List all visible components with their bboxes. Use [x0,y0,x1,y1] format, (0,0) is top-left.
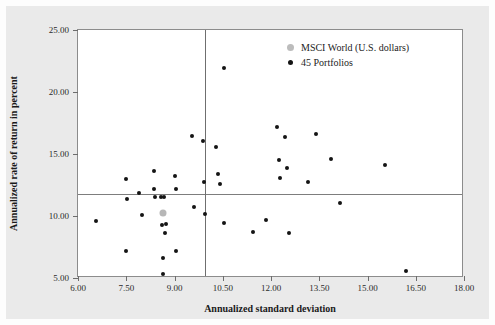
y-axis-title: Annualized rate of return in percent [6,29,20,277]
x-axis-tick-label: 15.00 [357,283,377,293]
portfolio-data-point [278,176,282,180]
y-axis-tick-label: 15.00 [49,149,69,159]
portfolio-data-point [124,177,128,181]
y-axis-tick [73,30,78,31]
portfolio-data-point [190,134,194,138]
portfolio-data-point [218,182,222,186]
portfolio-data-point [251,230,255,234]
portfolio-data-point [140,213,144,217]
x-axis-tick-label: 9.00 [167,283,183,293]
portfolio-data-point [329,157,333,161]
y-axis-tick [73,92,78,93]
x-axis-tick [223,276,224,281]
portfolio-data-point [214,145,218,149]
portfolio-data-point [161,272,165,276]
legend-item: MSCI World (U.S. dollars) [283,40,409,55]
x-axis-tick [126,276,127,281]
legend-item-label: 45 Portfolios [301,57,353,68]
y-axis-tick-label: 25.00 [49,25,69,35]
portfolio-data-point [174,187,178,191]
portfolio-data-point [137,191,141,195]
x-axis-tick-label: 10.50 [213,283,233,293]
portfolio-data-point [162,195,166,199]
vertical-reference-line [205,30,206,276]
chart-screenshot: Annualized rate of return in percent 5.0… [0,0,495,325]
x-axis-title: Annualized standard deviation [77,303,463,314]
y-axis-tick-label: 10.00 [49,211,69,221]
x-axis-tick-label: 18.00 [454,283,474,293]
y-axis-title-text: Annualized rate of return in percent [8,76,19,231]
x-axis-tick [271,276,272,281]
dot-icon [287,44,294,51]
portfolio-data-point [192,205,196,209]
portfolio-data-point [306,180,310,184]
portfolio-data-point [285,166,289,170]
portfolio-data-point [152,187,156,191]
x-axis-tick-label: 16.50 [406,283,426,293]
legend-item-label: MSCI World (U.S. dollars) [301,42,409,53]
portfolio-data-point [125,197,129,201]
portfolio-data-point [124,249,128,253]
dot-icon [288,60,293,65]
portfolio-data-point [161,256,165,260]
chart-legend: MSCI World (U.S. dollars)45 Portfolios [283,40,409,70]
legend-marker-icon [283,60,297,65]
portfolio-data-point [404,269,408,273]
x-axis-tick [78,276,79,281]
portfolio-data-point [94,219,98,223]
portfolio-data-point [202,180,206,184]
portfolio-data-point [314,132,318,136]
y-axis-tick-label: 20.00 [49,87,69,97]
x-axis-tick [175,276,176,281]
x-axis-tick-label: 12.00 [261,283,281,293]
portfolio-data-point [275,125,279,129]
x-axis-tick-label: 6.00 [70,283,86,293]
y-axis-tick [73,216,78,217]
y-axis-tick [73,154,78,155]
portfolio-data-point [216,172,220,176]
y-axis-tick-label: 5.00 [53,273,69,283]
portfolio-data-point [383,163,387,167]
portfolio-data-point [152,169,156,173]
portfolio-data-point [222,221,226,225]
x-axis-tick-label: 13.50 [309,283,329,293]
msci-world-data-point [160,209,167,216]
x-axis-tick-label: 7.50 [118,283,134,293]
portfolio-data-point [201,139,205,143]
portfolio-data-point [153,195,157,199]
x-axis-tick [368,276,369,281]
portfolio-data-point [173,174,177,178]
legend-item: 45 Portfolios [283,55,409,70]
x-axis-tick [416,276,417,281]
portfolio-data-point [287,231,291,235]
x-axis-tick [319,276,320,281]
x-axis-tick [464,276,465,281]
portfolio-data-point [264,218,268,222]
portfolio-data-point [283,135,287,139]
portfolio-data-point [203,212,207,216]
legend-marker-icon [283,44,297,51]
portfolio-data-point [164,222,168,226]
portfolio-data-point [338,201,342,205]
portfolio-data-point [277,158,281,162]
horizontal-reference-line [78,194,462,195]
portfolio-data-point [222,66,226,70]
portfolio-data-point [163,231,167,235]
portfolio-data-point [174,249,178,253]
